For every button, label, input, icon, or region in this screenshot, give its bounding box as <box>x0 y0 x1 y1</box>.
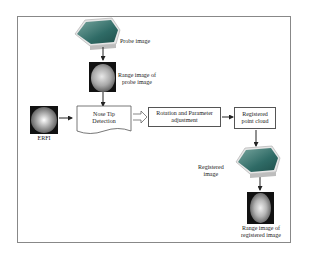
range-probe-label-line2: probe image <box>118 79 156 86</box>
registered-cloud-line2: point cloud <box>241 118 268 125</box>
registered-image-line1: Registered <box>198 164 224 171</box>
nose-tip-line2: Detection <box>77 118 131 125</box>
range-probe-image <box>89 62 116 92</box>
nose-tip-label: Nose Tip Detection <box>77 111 131 125</box>
probe-image-face-icon <box>75 18 120 50</box>
registered-image-line2: image <box>198 171 224 178</box>
range-registered-label: Range image of registered image <box>232 225 290 239</box>
range-probe-label: Range image of probe image <box>118 72 156 86</box>
registered-image-label: Registered image <box>198 164 224 178</box>
rotation-box: Rotation and Parameter adjustment <box>148 107 221 127</box>
registered-cloud-box: Registered point cloud <box>234 107 276 129</box>
range-registered-image <box>247 192 274 224</box>
range-registered-line1: Range image of <box>232 225 290 232</box>
registered-cloud-line1: Registered <box>242 111 268 118</box>
arrow-nosetip-to-rotation <box>133 111 147 123</box>
range-registered-line2: registered image <box>232 232 290 239</box>
nose-tip-line1: Nose Tip <box>77 111 131 118</box>
registered-image-face-icon <box>236 146 280 178</box>
range-probe-label-line1: Range image of <box>118 72 156 79</box>
rotation-line1: Rotation and Parameter <box>156 110 213 117</box>
erfi-label: ERFI <box>30 135 58 142</box>
erfi-image <box>30 106 58 134</box>
rotation-line2: adjustment <box>171 117 197 124</box>
probe-image-label: Probe image <box>120 38 150 45</box>
